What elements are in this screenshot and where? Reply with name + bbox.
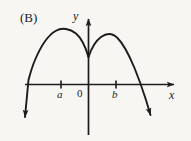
curve-left-arc: [25, 29, 89, 117]
figure-container:   (B) y x 0: [0, 0, 191, 141]
tick-label-a: a: [57, 89, 63, 100]
curve-right-arc: [89, 34, 151, 115]
y-axis-label: y: [73, 10, 78, 22]
panel-label: (B): [20, 11, 37, 24]
origin-label: 0: [77, 88, 83, 99]
tick-label-b: b: [112, 89, 118, 100]
x-axis-label: x: [169, 89, 174, 101]
